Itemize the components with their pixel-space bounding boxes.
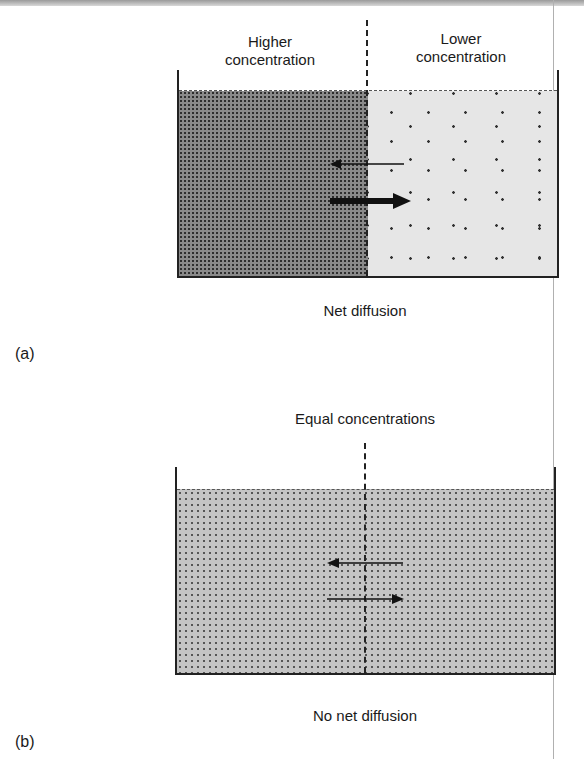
lower-concentration-label: Lower concentration <box>386 30 536 66</box>
diffusion-arrows-a <box>325 155 420 215</box>
no-net-diffusion-caption: No net diffusion <box>260 707 470 725</box>
left-arrow-icon <box>330 159 404 169</box>
label-line: concentration <box>200 51 340 69</box>
diffusion-arrows-b <box>322 553 412 609</box>
net-diffusion-caption: Net diffusion <box>270 302 460 320</box>
higher-concentration-label: Higher concentration <box>200 33 340 69</box>
page-top-edge <box>0 0 584 6</box>
right-thick-arrow-icon <box>330 193 411 209</box>
label-line: Higher <box>200 33 340 51</box>
left-arrow-icon <box>327 558 403 568</box>
label-line: concentration <box>386 48 536 66</box>
label-line: Lower <box>386 30 536 48</box>
right-arrow-icon <box>327 594 404 604</box>
panel-a-letter: (a) <box>15 345 35 363</box>
panel-b-letter: (b) <box>15 733 35 751</box>
equal-concentrations-title: Equal concentrations <box>250 410 480 428</box>
